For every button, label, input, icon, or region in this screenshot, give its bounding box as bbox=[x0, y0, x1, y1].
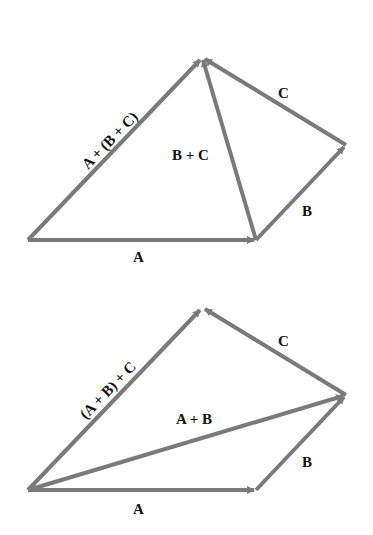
vector-b bbox=[256, 397, 344, 490]
label-ab-plus-c: (A + B) + C bbox=[77, 359, 140, 423]
label-a: A bbox=[133, 249, 144, 265]
label-b-plus-c: B + C bbox=[172, 147, 209, 163]
label-b: B bbox=[302, 203, 312, 219]
label-c: C bbox=[278, 85, 289, 101]
vector-addition-figure: A B C B + C A + (B + C) A B C A + B (A +… bbox=[0, 0, 373, 535]
label-c: C bbox=[278, 333, 289, 349]
label-a-plus-b: A + B bbox=[176, 411, 212, 427]
label-b: B bbox=[302, 454, 312, 470]
label-a-plus-bc: A + (B + C) bbox=[79, 109, 142, 173]
diagram-bottom bbox=[28, 309, 346, 490]
vector-b bbox=[256, 147, 344, 240]
label-a: A bbox=[133, 501, 144, 517]
vector-c bbox=[205, 309, 346, 395]
